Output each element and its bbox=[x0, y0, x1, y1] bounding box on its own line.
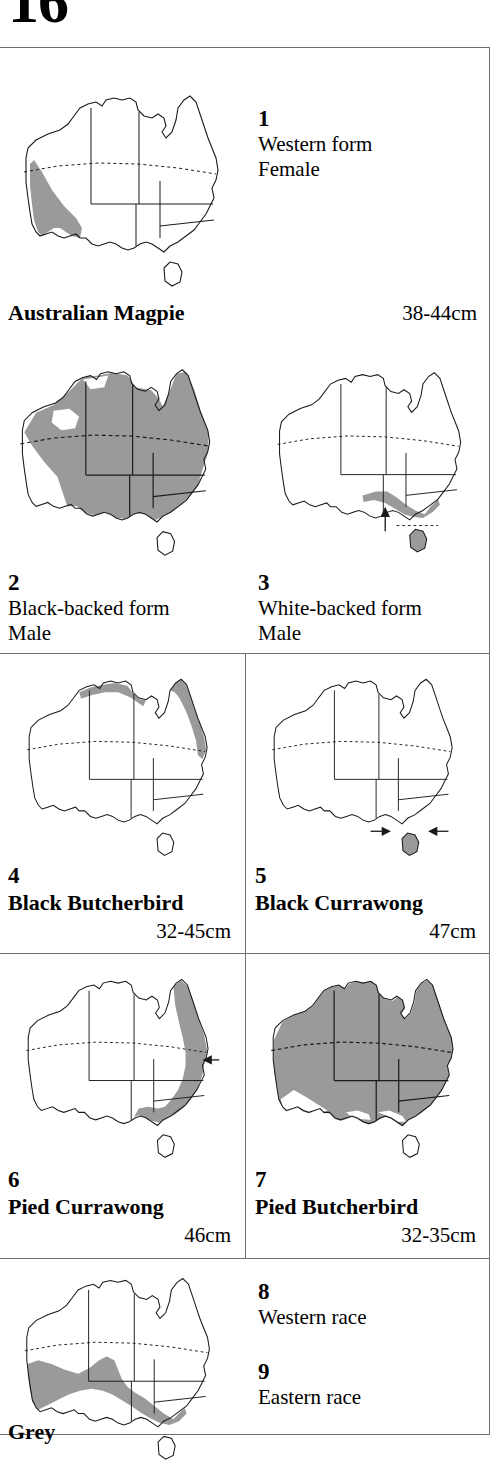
distribution-map-black-currawong bbox=[259, 670, 471, 860]
arrow-up-marker bbox=[380, 507, 389, 532]
australia-map-svg bbox=[14, 970, 226, 1162]
plate-cell-black-butcherbird: 4 Black Butcherbird 32-45cm bbox=[0, 654, 245, 953]
entry-number: 1 bbox=[258, 106, 372, 132]
entry-line: Male bbox=[258, 621, 422, 646]
australia-map-svg bbox=[8, 360, 228, 560]
tropic-of-capricorn-line bbox=[24, 163, 216, 174]
entry-number: 9 bbox=[258, 1359, 361, 1385]
australia-map-svg bbox=[259, 670, 471, 860]
coastline bbox=[27, 1279, 210, 1427]
species-name-black-currawong: Black Currawong bbox=[255, 890, 423, 916]
species-size-australian-magpie: 38-44cm bbox=[402, 300, 477, 326]
plate-frame: 1 Western form Female Australian Magpie … bbox=[0, 47, 490, 1435]
state-boundaries bbox=[91, 108, 214, 246]
arrow-right-marker bbox=[371, 827, 391, 836]
entry-line: Eastern race bbox=[258, 1385, 361, 1410]
tasmania bbox=[157, 1135, 174, 1157]
species-size-pied-currawong: 46cm bbox=[184, 1222, 231, 1248]
entry-number-4: 4 bbox=[8, 862, 20, 889]
tropic-of-capricorn-line bbox=[278, 436, 459, 446]
species-size-pied-butcherbird: 32-35cm bbox=[401, 1222, 476, 1248]
plate-row-magpie-western: 1 Western form Female Australian Magpie … bbox=[0, 48, 489, 348]
shaded-range bbox=[134, 980, 207, 1122]
australia-map-svg bbox=[18, 86, 230, 291]
distribution-map-pied-currawong bbox=[14, 970, 226, 1162]
entry-number-7: 7 bbox=[255, 1166, 267, 1193]
tasmania bbox=[157, 532, 175, 555]
entry-line: Male bbox=[8, 621, 170, 646]
entry-line: Female bbox=[258, 157, 372, 182]
entry-caption-2: 2 Black-backed form Male bbox=[8, 570, 170, 646]
entry-caption-3: 3 White-backed form Male bbox=[258, 570, 422, 646]
shaded-range bbox=[79, 680, 206, 759]
tasmania bbox=[158, 1436, 175, 1459]
plate-cell-black-currawong: 5 Black Currawong 47cm bbox=[245, 654, 490, 953]
page-number: 16 bbox=[8, 0, 68, 32]
entry-number-5: 5 bbox=[255, 862, 267, 889]
australia-map-svg bbox=[259, 970, 471, 1162]
entry-caption-8: 8 Western race bbox=[258, 1279, 367, 1330]
species-name-pied-butcherbird: Pied Butcherbird bbox=[255, 1194, 418, 1220]
plate-row-magpie-forms: 2 Black-backed form Male bbox=[0, 348, 489, 653]
distribution-map-pied-butcherbird bbox=[259, 970, 471, 1162]
australia-map-svg bbox=[14, 670, 226, 860]
entry-number-6: 6 bbox=[8, 1166, 20, 1193]
entry-caption-1: 1 Western form Female bbox=[258, 106, 372, 182]
plate-cell-pied-currawong: 6 Pied Currawong 46cm bbox=[0, 954, 245, 1258]
arrow-left-marker bbox=[428, 827, 448, 836]
species-size-black-currawong: 47cm bbox=[429, 918, 476, 944]
species-size-black-butcherbird: 32-45cm bbox=[156, 918, 231, 944]
state-boundaries bbox=[334, 690, 448, 818]
state-boundaries bbox=[341, 384, 457, 514]
australia-map-svg bbox=[272, 360, 472, 560]
entry-line: Western form bbox=[258, 132, 372, 157]
tropic-of-capricorn-line bbox=[25, 1342, 208, 1352]
entry-number: 8 bbox=[258, 1279, 367, 1305]
tropic-of-capricorn-line bbox=[27, 741, 205, 751]
entry-number: 2 bbox=[8, 570, 170, 596]
coastline bbox=[274, 679, 452, 824]
shaded-range bbox=[24, 372, 208, 520]
species-name-australian-magpie: Australian Magpie bbox=[8, 300, 185, 326]
species-name-grey: Grey bbox=[8, 1419, 55, 1445]
tasmania bbox=[402, 1135, 419, 1157]
coastline bbox=[26, 96, 218, 252]
shaded-range bbox=[30, 160, 82, 238]
tasmania bbox=[164, 262, 182, 286]
plate-cell-pied-butcherbird: 7 Pied Butcherbird 32-35cm bbox=[245, 954, 490, 1258]
tasmania bbox=[157, 833, 174, 855]
shaded-range bbox=[273, 980, 453, 1126]
species-name-pied-currawong: Pied Currawong bbox=[8, 1194, 164, 1220]
plate-row-pied-species: 6 Pied Currawong 46cm bbox=[0, 954, 489, 1258]
tasmania bbox=[402, 833, 419, 855]
entry-line: White-backed form bbox=[258, 596, 422, 621]
coastline bbox=[29, 679, 207, 824]
distribution-map-western-form-female bbox=[18, 86, 230, 291]
plate-row-grey-butcherbird: 8 Western race 9 Eastern race Grey bbox=[0, 1259, 489, 1436]
entry-line: Black-backed form bbox=[8, 596, 170, 621]
species-name-black-butcherbird: Black Butcherbird bbox=[8, 890, 183, 916]
distribution-map-black-backed-form-male bbox=[8, 360, 228, 560]
plate-row-black-species: 4 Black Butcherbird 32-45cm bbox=[0, 654, 489, 953]
tropic-of-capricorn-line bbox=[272, 741, 450, 751]
shaded-range bbox=[28, 1357, 187, 1425]
entry-caption-9: 9 Eastern race bbox=[258, 1359, 361, 1410]
entry-line: Western race bbox=[258, 1305, 367, 1330]
distribution-map-black-butcherbird bbox=[14, 670, 226, 860]
distribution-map-white-backed-form-male bbox=[272, 360, 472, 560]
tropic-of-capricorn-line bbox=[26, 1042, 206, 1052]
entry-number: 3 bbox=[258, 570, 422, 596]
tasmania bbox=[410, 529, 427, 552]
